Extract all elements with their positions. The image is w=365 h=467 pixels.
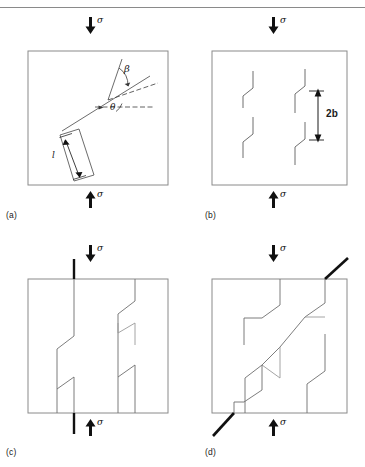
arrow-up-icon: [268, 419, 279, 436]
panel-d-bold-trace-lower-left: [213, 413, 234, 436]
panel-d-specimen-box: [212, 279, 347, 413]
panel-d-crack-upper-left: [244, 279, 280, 345]
panel-d-graphics: [0, 0, 365, 467]
crack-coalescence-figure: σ β θ l σ (a): [0, 0, 365, 467]
panel-d-crack-lower-left: [234, 365, 262, 413]
sigma-symbol: σ: [280, 418, 286, 427]
panel-label-d: (d): [205, 447, 216, 457]
panel-d-bottom-stress: σ: [268, 419, 286, 436]
panel-d-crack-lower-right: [307, 334, 325, 413]
panel-d-bold-trace-upper-right: [325, 258, 348, 279]
